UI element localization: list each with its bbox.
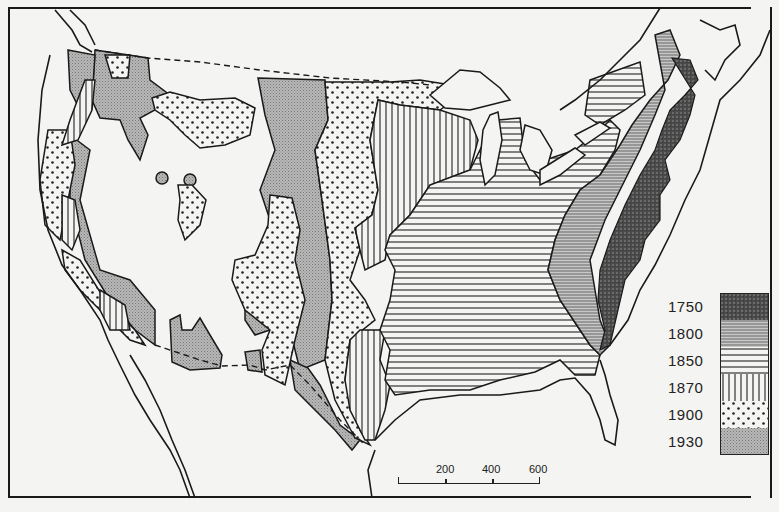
scale-bar: 200 400 600 — [398, 463, 548, 484]
legend-swatch-1850 — [720, 347, 769, 374]
legend: 1750 1800 1850 1870 1900 1930 — [668, 293, 769, 455]
legend-label: 1930 — [668, 433, 720, 450]
legend-label: 1870 — [668, 379, 720, 396]
legend-item-1900: 1900 — [668, 401, 769, 428]
settlement-map — [0, 0, 779, 512]
scale-tick — [492, 479, 494, 483]
scale-tick — [445, 479, 447, 483]
scale-labels: 200 400 600 — [398, 463, 548, 477]
legend-item-1930: 1930 — [668, 428, 769, 455]
legend-label: 1800 — [668, 325, 720, 342]
legend-item-1850: 1850 — [668, 347, 769, 374]
legend-swatch-1750 — [720, 293, 769, 320]
legend-item-1800: 1800 — [668, 320, 769, 347]
legend-label: 1900 — [668, 406, 720, 423]
legend-swatch-1870 — [720, 374, 769, 401]
legend-item-1750: 1750 — [668, 293, 769, 320]
scale-label-600: 600 — [529, 463, 547, 475]
legend-swatch-1930 — [720, 428, 769, 455]
legend-label: 1850 — [668, 352, 720, 369]
scale-line — [398, 477, 540, 484]
legend-swatch-1900 — [720, 401, 769, 428]
scale-label-200: 200 — [436, 463, 454, 475]
legend-item-1870: 1870 — [668, 374, 769, 401]
legend-label: 1750 — [668, 298, 720, 315]
legend-swatch-1800 — [720, 320, 769, 347]
scale-label-400: 400 — [482, 463, 500, 475]
